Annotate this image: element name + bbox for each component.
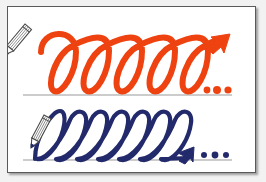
ellipsis-dot [223, 152, 229, 158]
worksheet-card: Two rows of continuous handwriting loops… [7, 6, 256, 173]
worksheet-canvas: Two rows of continuous handwriting loops… [0, 0, 266, 182]
pencil-icon-navy-row [28, 115, 51, 150]
ellipsis-dot [224, 86, 231, 93]
ellipsis-navy [201, 152, 229, 159]
orange-loop-row [8, 24, 232, 95]
ellipsis-dot [212, 152, 219, 159]
navy-loop-row [23, 111, 232, 164]
navy-loop-stroke [35, 111, 191, 160]
ellipsis-dot [213, 86, 221, 94]
worksheet-paper: Two rows of continuous handwriting loops… [8, 7, 257, 174]
pencil-icon-orange-row [8, 24, 32, 58]
ellipsis-orange [204, 86, 232, 94]
orange-coil-stroke [41, 34, 224, 91]
ellipsis-dot [204, 87, 211, 94]
handwriting-drawing [8, 7, 257, 174]
ellipsis-dot [201, 152, 207, 158]
